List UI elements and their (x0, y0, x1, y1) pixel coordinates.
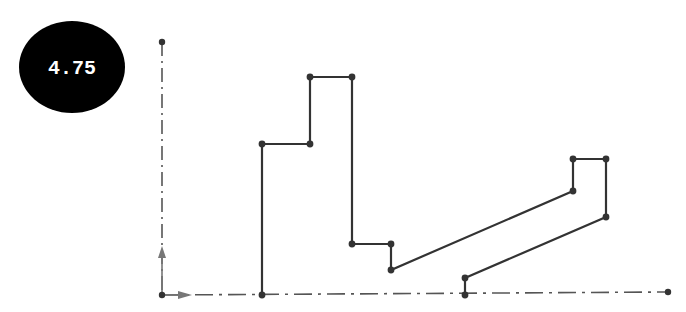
vertex-point (259, 141, 266, 148)
vertex-point (259, 292, 266, 299)
vertex-point (570, 188, 577, 195)
x-axis-arrow-icon (178, 291, 192, 299)
vertex-point (462, 275, 469, 282)
vertex-point (307, 141, 314, 148)
vertex-point (388, 267, 395, 274)
x-axis (162, 292, 668, 295)
vertex-point (307, 74, 314, 81)
profile-vertices (259, 74, 610, 299)
value-badge: 4.75 (19, 21, 125, 113)
vertex-point (388, 241, 395, 248)
profile-polyline (262, 77, 606, 295)
vertex-point (603, 214, 610, 221)
profile-diagram: 4.75 (0, 0, 686, 312)
profile-shape (259, 74, 610, 299)
y-axis-arrow-icon (158, 246, 166, 258)
x-axis-end-point (665, 289, 671, 295)
vertex-point (349, 241, 356, 248)
vertex-point (603, 156, 610, 163)
vertex-point (462, 292, 469, 299)
vertex-point (349, 74, 356, 81)
vertex-point (570, 156, 577, 163)
badge-label: 4.75 (48, 57, 96, 80)
origin-point (159, 292, 165, 298)
y-axis-end-point (159, 39, 165, 45)
